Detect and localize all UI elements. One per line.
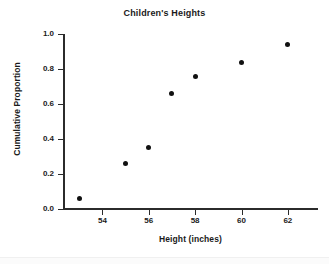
- chart-title: Children's Heights: [0, 8, 329, 18]
- x-tick-label: 60: [227, 216, 257, 225]
- data-point: [123, 161, 128, 166]
- y-tick-label: 1.0: [14, 29, 54, 38]
- y-tick-mark: [58, 34, 63, 35]
- y-tick-label: 0.0: [14, 204, 54, 213]
- chart-figure: Children's Heights 0.00.20.40.60.81.0 54…: [0, 0, 329, 264]
- x-tick-label: 62: [273, 216, 303, 225]
- data-point: [285, 42, 290, 47]
- y-tick-mark: [58, 139, 63, 140]
- data-point: [169, 91, 174, 96]
- x-tick-label: 54: [87, 216, 117, 225]
- data-point: [77, 196, 82, 201]
- data-point: [146, 145, 151, 150]
- x-axis-label: Height (inches): [63, 234, 318, 244]
- x-tick-mark: [149, 210, 150, 215]
- x-axis-line: [63, 208, 318, 210]
- x-tick-label: 56: [134, 216, 164, 225]
- data-point: [239, 60, 244, 65]
- x-tick-label: 58: [180, 216, 210, 225]
- y-axis-label: Cumulative Proportion: [12, 44, 22, 174]
- y-tick-mark: [58, 174, 63, 175]
- x-tick-mark: [195, 210, 196, 215]
- y-tick-mark: [58, 69, 63, 70]
- x-tick-mark: [242, 210, 243, 215]
- y-axis-line: [63, 34, 65, 210]
- x-tick-mark: [288, 210, 289, 215]
- data-point: [193, 74, 198, 79]
- y-tick-mark: [58, 104, 63, 105]
- y-tick-mark: [58, 209, 63, 210]
- bottom-divider: [0, 257, 329, 264]
- x-tick-mark: [102, 210, 103, 215]
